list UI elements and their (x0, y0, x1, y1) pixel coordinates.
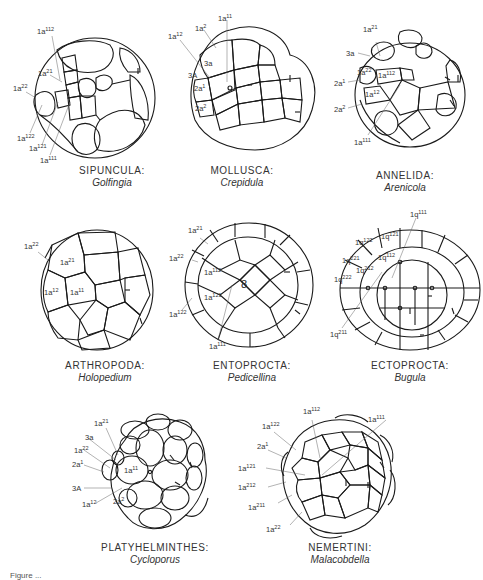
cell-label: 1a12 (82, 500, 96, 509)
cell-label: 3a (346, 49, 354, 58)
cell-label: 1a21 (363, 25, 377, 34)
cell-label: 2a2 (334, 105, 345, 114)
cell-label: 1a112 (378, 71, 395, 80)
caption-entoprocta: Entoprocta: Pedicellina (182, 360, 322, 383)
cell-label: 3A (188, 71, 197, 80)
caption-platyhelminthes: Platyhelminthes: Cycloporus (75, 542, 235, 565)
panel-mollusca: 1a11 1a2 1a12 3a 3A 2a1 2a2 Mollusca: Cr… (160, 0, 320, 200)
cell-label: 1q222 (334, 275, 352, 284)
cell-label: 1a112 (204, 268, 221, 277)
caption-arthropoda: Arthropoda: Holopedium (35, 360, 175, 383)
genus-name: Arenicola (335, 182, 475, 194)
cell-label: 2a2 (113, 497, 124, 506)
cell-label: 1a111 (209, 342, 226, 351)
genus-name: Cycloporus (75, 554, 235, 566)
cell-label: 1a121 (204, 293, 222, 302)
cell-label: 1a22 (357, 68, 371, 77)
cell-label: 1q121 (381, 232, 399, 241)
genus-name: Crepidula (172, 177, 312, 189)
phylum-name: Arthropoda: (35, 360, 175, 372)
cell-label: 1a211 (248, 503, 265, 512)
cell-label: 1q221 (342, 256, 360, 265)
cell-label: 1a122 (17, 134, 35, 143)
cell-label: 1a111 (354, 138, 371, 147)
cell-label: 1a21 (60, 258, 74, 267)
cell-label: 1a2 (195, 24, 206, 33)
phylum-name: Platyhelminthes: (75, 542, 235, 554)
cell-label: 1a22 (24, 242, 38, 251)
cell-label: 1a21 (94, 419, 108, 428)
cell-label: 1a22 (169, 254, 183, 263)
panel-nemertini: 1a112 1a111 1a122 2a1 1a121 1a212 1a211 … (250, 390, 430, 570)
cell-label: 1a212 (238, 483, 256, 492)
cell-label: 1a22 (74, 446, 88, 455)
cell-label: 2a1 (72, 460, 83, 469)
panel-entoprocta: 8 1a21 1a22 1a112 1a121 1a122 1a111 Ento… (160, 200, 320, 390)
cell-label: 3A (72, 484, 81, 493)
phylum-name: Entoprocta: (182, 360, 322, 372)
cell-label: 1a11 (218, 14, 232, 23)
cell-label: 1q211 (330, 330, 347, 339)
genus-name: Pedicellina (182, 372, 322, 384)
panel-ectoprocta: 1q111 1q121 1q122 1q112 1q221 1q212 1q22… (320, 200, 483, 390)
cell-label: 1a122 (169, 310, 187, 319)
cell-label: 2a1 (257, 442, 268, 451)
cell-label: 1a21 (38, 69, 52, 78)
svg-text:8: 8 (241, 278, 247, 290)
cell-label: 1a121 (238, 464, 256, 473)
caption-ectoprocta: Ectoprocta: Bugula (340, 360, 480, 383)
figure-caption: Figure ... (10, 571, 42, 580)
cell-label: 1a22 (266, 525, 280, 534)
cell-label: 1q212 (356, 266, 374, 275)
cell-label: 1a112 (303, 407, 320, 416)
phylum-name: Nemertini: (270, 542, 410, 554)
phylum-name: Mollusca: (172, 165, 312, 177)
cell-label: 2a1 (334, 79, 345, 88)
genus-name: Malacobdella (270, 554, 410, 566)
cell-label: 1a122 (262, 422, 280, 431)
genus-name: Holopedium (35, 372, 175, 384)
cell-label: 2a2 (195, 104, 206, 113)
cell-label: 1a12 (168, 32, 182, 41)
cell-label: 1a111 (368, 415, 385, 424)
cell-label: 1a121 (29, 144, 47, 153)
cell-label: 3a (85, 433, 93, 442)
phylum-name: Annelida: (335, 170, 475, 182)
phylum-name: Ectoprocta: (340, 360, 480, 372)
cell-label: 1a111 (40, 156, 57, 165)
cell-label: 1a11 (70, 288, 84, 297)
panel-arthropoda: 1a22 1a21 1a12 1a11 Arthropoda: Holopedi… (0, 200, 160, 390)
genus-name: Bugula (340, 372, 480, 384)
cell-label: 2a1 (194, 84, 205, 93)
cell-label: 1a11 (124, 466, 138, 475)
cell-label: 1q112 (378, 253, 395, 262)
cell-label: 1a21 (188, 226, 202, 235)
panel-sipuncula: 1a112 1a21 1a22 1a122 1a121 1a111 Sipunc… (0, 0, 160, 200)
cell-label: 1a12 (44, 288, 58, 297)
cell-label: 3a (204, 59, 212, 68)
cell-label: 1a22 (13, 84, 27, 93)
cell-label: 1a112 (37, 27, 54, 36)
caption-mollusca: Mollusca: Crepidula (172, 165, 312, 188)
cell-label: 1a12 (365, 90, 379, 99)
panel-annelida: 1a21 3a 1a22 1a112 2a1 1a12 2a2 1a111 An… (320, 0, 483, 200)
panel-platyhelminthes: 1a21 3a 1a22 2a1 1a11 3A 1a12 2a2 Platyh… (80, 390, 260, 570)
caption-annelida: Annelida: Arenicola (335, 170, 475, 193)
cell-label: 1q122 (355, 238, 373, 247)
cell-label: 1q111 (410, 210, 427, 219)
caption-nemertini: Nemertini: Malacobdella (270, 542, 410, 565)
